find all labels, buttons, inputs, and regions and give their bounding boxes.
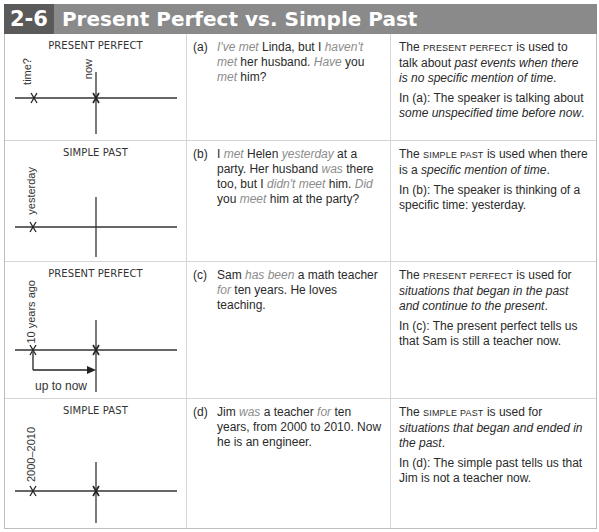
diagram-cell: SIMPLE PAST yesterday: [5, 141, 187, 261]
highlighted-verb: for: [317, 405, 331, 419]
explanation-text: The present perfect is used for situatio…: [399, 268, 588, 354]
explanation-text: The present perfect is used to talk abou…: [399, 40, 588, 126]
highlighted-verb: met: [224, 147, 244, 161]
timeline-diagram: 10 years ago up to now: [5, 262, 186, 398]
explanation-rule: The simple past is used for situations t…: [399, 405, 588, 451]
explanation-note: In (c): The present perfect tells us tha…: [399, 319, 588, 349]
example-text: (a) I've met Linda, but I haven't met he…: [193, 40, 384, 85]
grammar-chart: 2-6 Present Perfect vs. Simple Past PRES…: [4, 4, 597, 530]
highlighted-verb: meet: [240, 192, 267, 206]
explanation-cell: The present perfect is used to talk abou…: [391, 34, 596, 140]
highlighted-verb: has been: [245, 268, 294, 282]
table-row: PRESENT PERFECT 10 years ago: [5, 262, 596, 399]
example-cell: (c) Sam has been a math teacher for ten …: [187, 262, 391, 398]
highlighted-verb: didn't meet: [267, 177, 325, 191]
example-label: (b): [193, 147, 208, 162]
example-label: (a): [193, 40, 208, 55]
example-cell: (d) Jim was a teacher for ten years, fro…: [187, 399, 391, 528]
explanation-rule: The present perfect is used for situatio…: [399, 268, 588, 314]
table-row: SIMPLE PAST 2000–2010 (: [5, 399, 596, 528]
now-label: now: [82, 59, 94, 79]
highlighted-verb: I've met: [217, 40, 259, 54]
example-sentence: Sam has been a math teacher for ten year…: [217, 268, 384, 313]
table-row: SIMPLE PAST yesterday (b) I met Helen ye…: [5, 141, 596, 262]
timeline-diagram: yesterday: [5, 141, 186, 261]
highlighted-verb: Did: [355, 177, 373, 191]
ten-years-ago-label: 10 years ago: [25, 280, 37, 344]
highlighted-verb: was: [322, 162, 343, 176]
explanation-note: In (b): The speaker is thinking of a spe…: [399, 183, 588, 213]
explanation-note: In (d): The simple past tells us that Ji…: [399, 456, 588, 486]
example-sentence: I met Helen yesterday at a party. Her hu…: [217, 147, 384, 207]
example-label: (c): [193, 268, 207, 283]
example-label: (d): [193, 405, 208, 420]
explanation-cell: The present perfect is used for situatio…: [391, 262, 596, 398]
highlighted-verb: yesterday: [282, 147, 334, 161]
example-cell: (a) I've met Linda, but I haven't met he…: [187, 34, 391, 140]
section-number: 2-6: [4, 4, 54, 34]
timeline-diagram: time? now: [5, 34, 186, 140]
example-text: (c) Sam has been a math teacher for ten …: [193, 268, 384, 313]
time-label: time?: [21, 58, 33, 85]
table-row: PRESENT PERFECT time? now: [5, 34, 596, 141]
explanation-cell: The simple past is used for situations t…: [391, 399, 596, 528]
diagram-cell: SIMPLE PAST 2000–2010: [5, 399, 187, 528]
yesterday-label: yesterday: [25, 167, 37, 215]
explanation-rule: The simple past is used when there is a …: [399, 147, 588, 178]
date-range-label: 2000–2010: [25, 427, 37, 482]
highlighted-verb: for: [217, 283, 231, 297]
highlighted-verb: met: [217, 70, 237, 84]
example-sentence: Jim was a teacher for ten years, from 20…: [217, 405, 384, 450]
explanation-cell: The simple past is used when there is a …: [391, 141, 596, 261]
example-text: (d) Jim was a teacher for ten years, fro…: [193, 405, 384, 450]
diagram-cell: PRESENT PERFECT time? now: [5, 34, 187, 140]
up-to-now-label: up to now: [35, 379, 87, 393]
up-to-now-arrow-icon: [33, 352, 96, 374]
diagram-cell: PRESENT PERFECT 10 years ago: [5, 262, 187, 398]
highlighted-verb: Have: [314, 55, 342, 69]
timeline-diagram: 2000–2010: [5, 399, 186, 528]
explanation-text: The simple past is used when there is a …: [399, 147, 588, 218]
example-sentence: I've met Linda, but I haven't met her hu…: [217, 40, 384, 85]
highlighted-verb: was: [239, 405, 260, 419]
explanation-note: In (a): The speaker is talking about som…: [399, 91, 588, 121]
grammar-table: PRESENT PERFECT time? now: [4, 34, 597, 529]
chart-header: 2-6 Present Perfect vs. Simple Past: [4, 4, 597, 34]
example-cell: (b) I met Helen yesterday at a party. He…: [187, 141, 391, 261]
explanation-text: The simple past is used for situations t…: [399, 405, 588, 491]
explanation-rule: The present perfect is used to talk abou…: [399, 40, 588, 86]
section-title: Present Perfect vs. Simple Past: [54, 7, 417, 31]
example-text: (b) I met Helen yesterday at a party. He…: [193, 147, 384, 207]
